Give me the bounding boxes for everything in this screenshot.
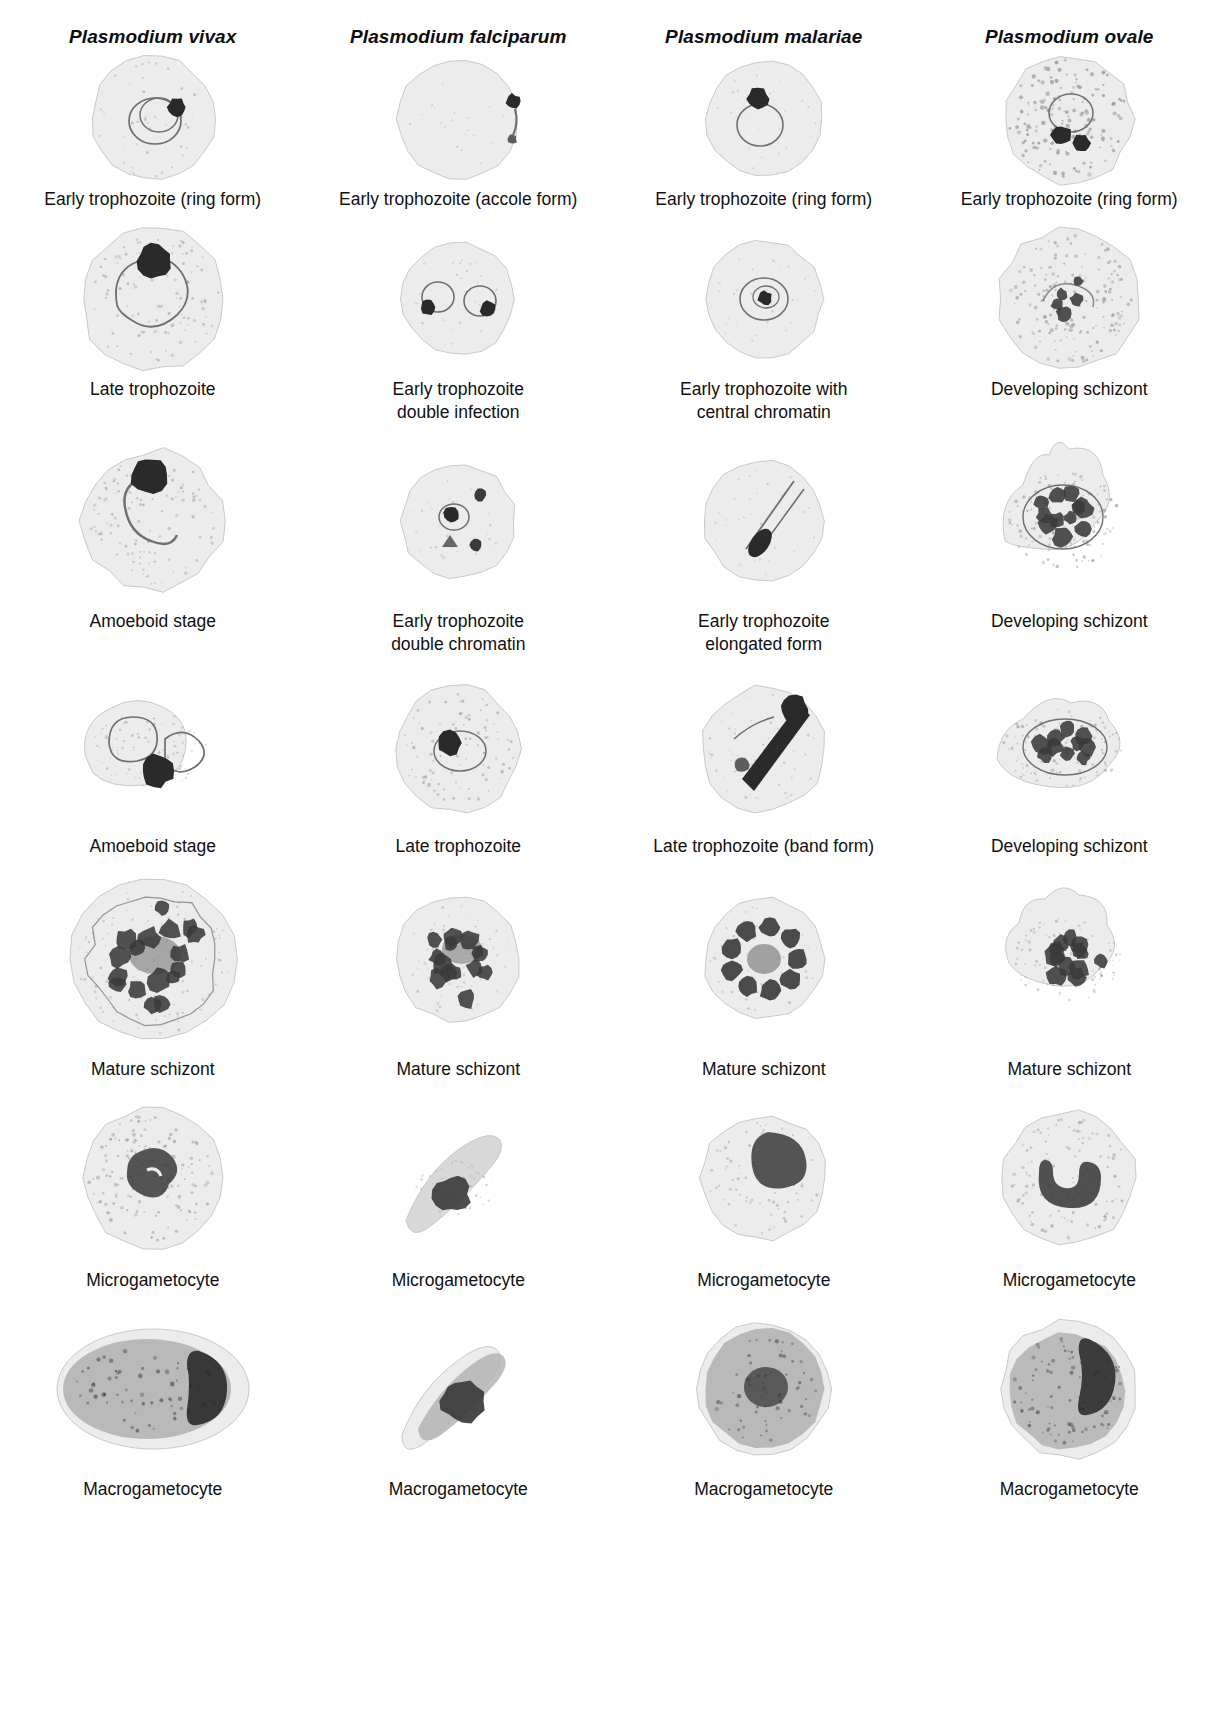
specimen-cell-malariae-1: Early trophozoite (ring form) (611, 54, 917, 210)
specimen-caption: Amoeboid stage (90, 835, 216, 857)
micrograph-schizont-irregular (917, 864, 1222, 1054)
specimen-caption: Late trophozoite (90, 378, 216, 400)
specimen-cell-vivax-3: Amoeboid stage (0, 436, 306, 632)
specimen-cell-ovale-1: Early trophozoite (ring form) (917, 54, 1222, 210)
specimen-cell-malariae-5: Mature schizont (611, 864, 917, 1080)
specimen-caption: Macrogametocyte (389, 1478, 528, 1500)
micrograph-amoeboid-2 (0, 666, 306, 831)
specimen-caption: Microgametocyte (697, 1269, 830, 1291)
specimen-cell-falciparum-5: Mature schizont (306, 864, 612, 1080)
specimen-caption: Mature schizont (1007, 1058, 1131, 1080)
micrograph-macro-ovale (917, 1304, 1222, 1474)
specimen-caption: Amoeboid stage (90, 610, 216, 632)
specimen-cell-vivax-5: Mature schizont (0, 864, 306, 1080)
specimen-cell-ovale-3: Developing schizont (917, 436, 1222, 632)
specimen-cell-vivax-4: Amoeboid stage (0, 666, 306, 857)
specimen-cell-malariae-7: Macrogametocyte (611, 1304, 917, 1500)
micrograph-micro-banana (306, 1090, 612, 1265)
specimen-caption: Macrogametocyte (1000, 1478, 1139, 1500)
specimen-caption: Early trophozoite double infection (393, 378, 524, 424)
specimen-caption: Developing schizont (991, 835, 1148, 857)
specimen-cell-falciparum-4: Late trophozoite (306, 666, 612, 857)
specimen-row-3: Amoeboid stageEarly trophozoite double c… (0, 436, 1222, 656)
specimen-cell-ovale-6: Microgametocyte (917, 1090, 1222, 1291)
specimen-caption: Microgametocyte (1003, 1269, 1136, 1291)
specimen-caption: Mature schizont (91, 1058, 215, 1080)
specimen-grid: Early trophozoite (ring form)Early troph… (0, 54, 1222, 1500)
specimen-row-1: Early trophozoite (ring form)Early troph… (0, 54, 1222, 210)
specimen-cell-vivax-6: Microgametocyte (0, 1090, 306, 1291)
specimen-cell-malariae-4: Late trophozoite (band form) (611, 666, 917, 857)
specimen-caption: Macrogametocyte (83, 1478, 222, 1500)
specimen-caption: Early trophozoite with central chromatin (680, 378, 847, 424)
specimen-caption: Microgametocyte (392, 1269, 525, 1291)
specimen-cell-falciparum-7: Macrogametocyte (306, 1304, 612, 1500)
micrograph-amoeboid-1 (0, 436, 306, 606)
plasmodium-morphology-figure: Plasmodium vivax Plasmodium falciparum P… (0, 0, 1222, 1735)
micrograph-elongated (611, 436, 917, 606)
micrograph-dev-schizont-fimbriated (917, 436, 1222, 606)
specimen-caption: Early trophozoite elongated form (698, 610, 829, 656)
specimen-caption: Developing schizont (991, 378, 1148, 400)
specimen-row-5: Mature schizontMature schizontMature sch… (0, 864, 1222, 1080)
micrograph-macro-round (611, 1304, 917, 1474)
specimen-cell-malariae-3: Early trophozoite elongated form (611, 436, 917, 656)
specimen-cell-falciparum-2: Early trophozoite double infection (306, 224, 612, 424)
specimen-caption: Developing schizont (991, 610, 1148, 632)
micrograph-ring-compact (611, 54, 917, 184)
specimen-cell-ovale-5: Mature schizont (917, 864, 1222, 1080)
specimen-cell-falciparum-3: Early trophozoite double chromatin (306, 436, 612, 656)
specimen-cell-malariae-2: Early trophozoite with central chromatin (611, 224, 917, 424)
specimen-cell-malariae-6: Microgametocyte (611, 1090, 917, 1291)
specimen-row-6: MicrogametocyteMicrogametocyteMicrogamet… (0, 1090, 1222, 1291)
specimen-caption: Late trophozoite (band form) (653, 835, 874, 857)
micrograph-micro-crescent (917, 1090, 1222, 1265)
specimen-row-7: MacrogametocyteMacrogametocyteMacrogamet… (0, 1304, 1222, 1500)
micrograph-double-chromatin (306, 436, 612, 606)
specimen-caption: Late trophozoite (395, 835, 521, 857)
specimen-cell-falciparum-6: Microgametocyte (306, 1090, 612, 1291)
micrograph-ring-stippled (917, 54, 1222, 184)
micrograph-ring (0, 54, 306, 184)
specimen-cell-ovale-4: Developing schizont (917, 666, 1222, 857)
micrograph-schizont-large (0, 864, 306, 1054)
micrograph-dev-schizont-faint (917, 224, 1222, 374)
micrograph-band-form (611, 666, 917, 831)
specimen-cell-ovale-2: Developing schizont (917, 224, 1222, 400)
specimen-cell-vivax-2: Late trophozoite (0, 224, 306, 400)
specimen-cell-vivax-7: Macrogametocyte (0, 1304, 306, 1500)
micrograph-schizont-rosette (611, 864, 917, 1054)
micrograph-late-troph-vivax (0, 224, 306, 374)
specimen-cell-falciparum-1: Early trophozoite (accole form) (306, 54, 612, 210)
specimen-caption: Mature schizont (396, 1058, 520, 1080)
micrograph-macro-banana (306, 1304, 612, 1474)
micrograph-macro-oval (0, 1304, 306, 1474)
specimen-caption: Early trophozoite double chromatin (391, 610, 525, 656)
micrograph-micro-compact (611, 1090, 917, 1265)
specimen-caption: Mature schizont (702, 1058, 826, 1080)
micrograph-late-troph-fal (306, 666, 612, 831)
micrograph-central-chromatin (611, 224, 917, 374)
specimen-row-2: Late trophozoiteEarly trophozoite double… (0, 224, 1222, 424)
micrograph-accole (306, 54, 612, 184)
specimen-caption: Microgametocyte (86, 1269, 219, 1291)
specimen-row-4: Amoeboid stageLate trophozoiteLate troph… (0, 666, 1222, 857)
micrograph-micro-round (0, 1090, 306, 1265)
micrograph-schizont-medium (306, 864, 612, 1054)
specimen-caption: Macrogametocyte (694, 1478, 833, 1500)
micrograph-dev-schizont-oval (917, 666, 1222, 831)
specimen-cell-ovale-7: Macrogametocyte (917, 1304, 1222, 1500)
specimen-cell-vivax-1: Early trophozoite (ring form) (0, 54, 306, 210)
micrograph-double-ring (306, 224, 612, 374)
